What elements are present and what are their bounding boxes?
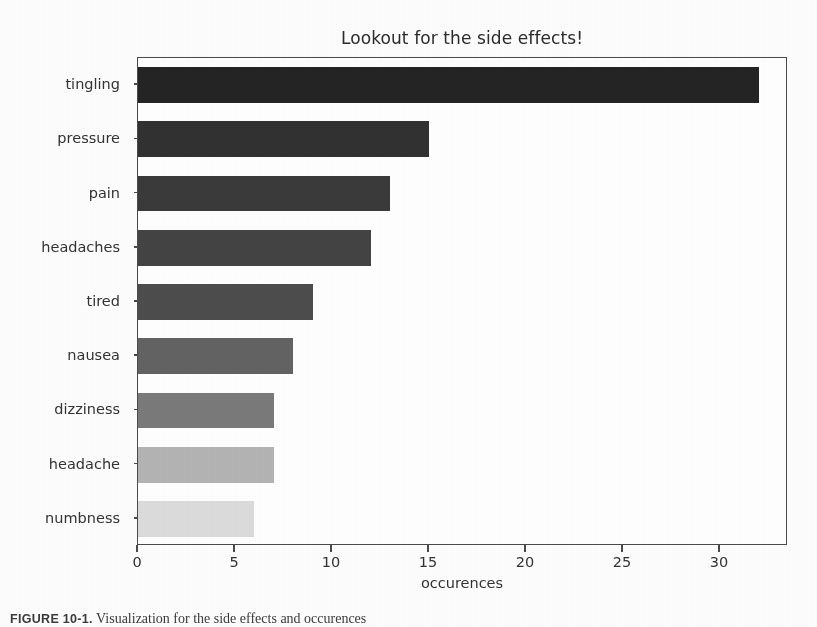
x-tick-mark bbox=[621, 545, 623, 552]
scanned-book-page: Lookout for the side effects! tinglingpr… bbox=[0, 0, 817, 627]
x-tick-mark bbox=[718, 545, 720, 552]
y-tick-label-numbness: numbness bbox=[45, 510, 130, 526]
y-axis-tick-labels: tinglingpressurepainheadachestirednausea… bbox=[0, 57, 130, 545]
plot-area bbox=[137, 57, 787, 545]
y-tick-label-headaches: headaches bbox=[41, 239, 130, 255]
bar-tingling bbox=[138, 67, 786, 103]
y-tick-label-tingling: tingling bbox=[65, 76, 130, 92]
x-tick-mark bbox=[524, 545, 526, 552]
bar-pressure bbox=[138, 121, 786, 157]
x-tick-label-30: 30 bbox=[710, 554, 728, 570]
figure-caption: FIGURE 10-1. Visualization for the side … bbox=[10, 611, 800, 627]
x-tick-label-5: 5 bbox=[229, 554, 238, 570]
x-tick-label-15: 15 bbox=[419, 554, 437, 570]
x-tick-mark bbox=[427, 545, 429, 552]
x-tick-label-20: 20 bbox=[516, 554, 534, 570]
x-axis-title: occurences bbox=[137, 575, 787, 591]
x-tick-label-25: 25 bbox=[613, 554, 631, 570]
bar-dizziness bbox=[138, 393, 786, 429]
bar-fill bbox=[138, 501, 254, 537]
bar-fill bbox=[138, 121, 429, 157]
bar-fill bbox=[138, 393, 274, 429]
figure-caption-text: Visualization for the side effects and o… bbox=[96, 611, 366, 626]
bar-tired bbox=[138, 284, 786, 320]
bar-fill bbox=[138, 230, 371, 266]
chart-title: Lookout for the side effects! bbox=[137, 28, 787, 48]
y-tick-label-dizziness: dizziness bbox=[54, 401, 130, 417]
bar-fill bbox=[138, 338, 293, 374]
bar-series bbox=[138, 58, 786, 544]
bar-fill bbox=[138, 176, 390, 212]
y-tick-label-tired: tired bbox=[87, 293, 130, 309]
bar-chart-figure: Lookout for the side effects! tinglingpr… bbox=[0, 0, 817, 600]
bar-fill bbox=[138, 447, 274, 483]
x-tick-mark bbox=[330, 545, 332, 552]
bar-nausea bbox=[138, 338, 786, 374]
bar-headaches bbox=[138, 230, 786, 266]
y-tick-label-nausea: nausea bbox=[67, 347, 130, 363]
bar-pain bbox=[138, 176, 786, 212]
y-tick-label-pressure: pressure bbox=[57, 130, 130, 146]
bar-numbness bbox=[138, 501, 786, 537]
bar-fill bbox=[138, 67, 759, 103]
x-tick-label-0: 0 bbox=[132, 554, 141, 570]
y-tick-label-pain: pain bbox=[89, 185, 130, 201]
bar-headache bbox=[138, 447, 786, 483]
bar-fill bbox=[138, 284, 313, 320]
figure-caption-label: FIGURE 10-1. bbox=[10, 612, 93, 626]
x-tick-mark bbox=[136, 545, 138, 552]
x-tick-mark bbox=[233, 545, 235, 552]
x-tick-label-10: 10 bbox=[322, 554, 340, 570]
y-tick-label-headache: headache bbox=[49, 456, 130, 472]
